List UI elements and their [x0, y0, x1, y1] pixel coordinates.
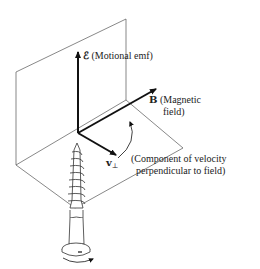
velocity-subscript: ⊥ [112, 162, 119, 170]
field-description-line2: field) [163, 106, 185, 117]
screw-rotation-arrow [63, 258, 93, 262]
screw [62, 143, 90, 256]
vertical-plane [16, 19, 126, 165]
field-description-line1: (Magnetic [160, 94, 201, 105]
field-label: B (Magnetic [149, 94, 201, 105]
emf-description: (Motional emf) [92, 50, 153, 61]
field-arrow [78, 89, 156, 133]
velocity-description-line1: (Component of velocity [131, 153, 227, 164]
field-symbol: B [149, 94, 157, 105]
diagram-canvas [0, 0, 260, 269]
emf-label: ℰ (Motional emf) [83, 50, 153, 61]
velocity-label: v⊥ [106, 157, 118, 172]
emf-symbol: ℰ [83, 50, 89, 61]
velocity-arrow [78, 133, 116, 155]
velocity-description-line2: perpendicular to field) [136, 165, 225, 176]
